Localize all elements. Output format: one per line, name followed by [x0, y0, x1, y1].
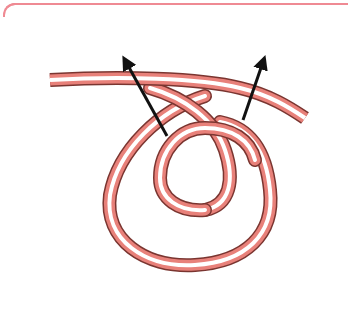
inner-loop — [160, 128, 255, 210]
outer-loop — [109, 96, 270, 265]
